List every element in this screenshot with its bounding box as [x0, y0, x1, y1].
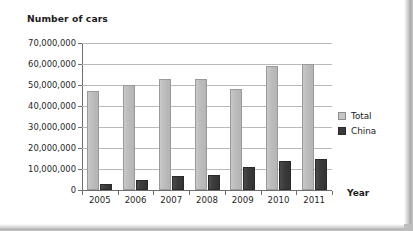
x-axis-tick-label-2006: 2006	[125, 195, 147, 205]
gridline	[82, 106, 332, 107]
y-axis-tick	[78, 64, 82, 65]
chart-figure: Number of cars 010,000,00020,000,00030,0…	[0, 0, 413, 231]
x-axis-tick-label-2010: 2010	[267, 195, 289, 205]
y-axis-tick-label: 0	[71, 185, 76, 195]
y-axis-tick	[78, 43, 82, 44]
legend-item-total[interactable]: Total	[338, 108, 376, 123]
legend-label-china: China	[351, 126, 376, 136]
bar-china-2010[interactable]	[279, 161, 291, 190]
chart-title: Number of cars	[27, 13, 108, 24]
y-axis-tick	[78, 148, 82, 149]
x-axis-tick-label-2009: 2009	[232, 195, 254, 205]
bar-total-2005[interactable]	[87, 91, 99, 190]
y-axis-tick-label: 60,000,000	[28, 59, 76, 69]
page-edge-corner	[404, 224, 413, 231]
x-axis-tick	[261, 191, 262, 195]
chart-legend: Total China	[338, 108, 376, 138]
gridline	[82, 127, 332, 128]
gridline	[82, 85, 332, 86]
x-axis-title: Year	[347, 188, 369, 198]
bar-china-2005[interactable]	[100, 184, 112, 190]
bar-china-2011[interactable]	[315, 159, 327, 191]
gridline	[82, 148, 332, 149]
bar-china-2008[interactable]	[208, 175, 220, 190]
y-axis-tick-label: 70,000,000	[28, 38, 76, 48]
x-axis-tick-label-2005: 2005	[89, 195, 111, 205]
page-edge-bottom	[0, 224, 413, 231]
y-axis-tick	[78, 127, 82, 128]
x-axis-tick	[332, 191, 333, 195]
y-axis-tick	[78, 169, 82, 170]
y-axis-tick	[78, 106, 82, 107]
bar-total-2009[interactable]	[230, 89, 242, 190]
x-axis-tick	[189, 191, 190, 195]
legend-item-china[interactable]: China	[338, 123, 376, 138]
y-axis-tick	[78, 85, 82, 86]
x-axis-tick-label-2008: 2008	[196, 195, 218, 205]
x-axis-tick	[82, 191, 83, 195]
legend-swatch-china-icon	[338, 127, 346, 135]
legend-label-total: Total	[351, 111, 372, 121]
bar-total-2008[interactable]	[195, 79, 207, 190]
y-axis-tick-label: 30,000,000	[28, 122, 76, 132]
x-axis-tick	[225, 191, 226, 195]
bar-china-2007[interactable]	[172, 176, 184, 190]
bar-total-2006[interactable]	[123, 85, 135, 190]
bar-china-2009[interactable]	[243, 167, 255, 190]
bar-china-2006[interactable]	[136, 180, 148, 191]
x-axis-tick	[118, 191, 119, 195]
x-axis-tick	[296, 191, 297, 195]
plot-area: 010,000,00020,000,00030,000,00040,000,00…	[82, 43, 332, 190]
bar-total-2010[interactable]	[266, 66, 278, 190]
gridline	[82, 169, 332, 170]
x-axis-tick-label-2011: 2011	[303, 195, 325, 205]
page-edge-right	[404, 0, 413, 231]
x-axis-tick	[153, 191, 154, 195]
y-axis-tick-label: 40,000,000	[28, 101, 76, 111]
bar-total-2011[interactable]	[302, 64, 314, 190]
gridline	[82, 64, 332, 65]
y-axis-tick-label: 10,000,000	[28, 164, 76, 174]
y-axis-tick-label: 20,000,000	[28, 143, 76, 153]
gridline	[82, 43, 332, 44]
bar-total-2007[interactable]	[159, 79, 171, 190]
legend-swatch-total-icon	[338, 112, 346, 120]
x-axis-tick-label-2007: 2007	[160, 195, 182, 205]
x-axis-line	[82, 190, 332, 191]
y-axis-tick-label: 50,000,000	[28, 80, 76, 90]
